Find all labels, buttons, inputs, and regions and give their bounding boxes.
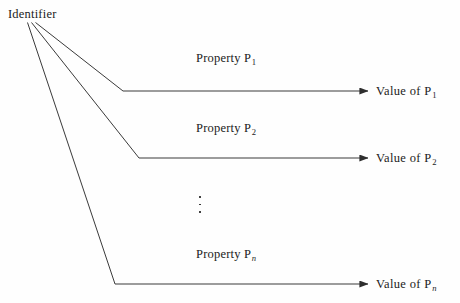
property-label-1-text: Property P	[196, 51, 251, 65]
value-label-2-subscript: 2	[432, 157, 437, 167]
value-label-n-subscript: n	[432, 283, 437, 293]
property-label-n-text: Property P	[196, 247, 251, 261]
property-label-1-subscript: 1	[251, 57, 256, 67]
value-label-n: Value of Pn	[376, 277, 437, 291]
property-label-1: Property P1	[196, 51, 256, 65]
value-label-2-text: Value of P	[376, 151, 432, 165]
value-label-n-text: Value of P	[376, 277, 432, 291]
value-label-1: Value of P1	[376, 84, 437, 98]
value-label-2: Value of P2	[376, 151, 437, 165]
property-label-2-text: Property P	[196, 121, 251, 135]
identifier-label: Identifier	[8, 7, 57, 21]
property-label-n: Property Pn	[196, 247, 256, 261]
value-label-1-text: Value of P	[376, 84, 432, 98]
branch-line-2	[32, 23, 369, 159]
value-label-1-subscript: 1	[432, 90, 437, 100]
identifier-label-text: Identifier	[8, 7, 57, 21]
property-label-2: Property P2	[196, 121, 256, 135]
ellipsis-dot	[199, 196, 201, 198]
ellipsis-dot	[199, 204, 201, 206]
property-label-n-subscript: n	[251, 253, 256, 263]
identifier-property-value-diagram: Identifier Property P1 Property P2 Prope…	[0, 0, 460, 303]
vertical-ellipsis-icon	[197, 196, 203, 218]
property-label-2-subscript: 2	[251, 127, 256, 137]
ellipsis-dot	[199, 211, 201, 213]
